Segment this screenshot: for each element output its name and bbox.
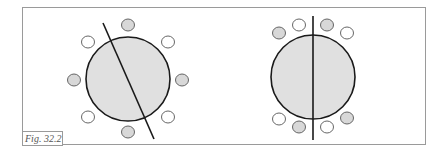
small-circle-white: [341, 27, 354, 39]
small-circle-gray: [273, 27, 286, 39]
small-circle-gray: [122, 126, 135, 138]
small-circle-white: [162, 36, 175, 48]
small-circle-white: [82, 36, 95, 48]
figure-caption: Fig. 32.2: [22, 131, 63, 146]
diagram-right: [271, 16, 355, 140]
small-circle-white: [321, 121, 334, 133]
small-circle-white: [293, 19, 306, 31]
small-circle-gray: [341, 112, 354, 124]
diagram-left: [68, 19, 189, 139]
small-circle-gray: [176, 74, 189, 86]
figure-diagram: [0, 0, 443, 156]
small-circle-white: [273, 113, 286, 125]
small-circle-gray: [122, 19, 135, 31]
small-circle-white: [82, 111, 95, 123]
small-circle-gray: [68, 74, 81, 86]
small-circle-white: [162, 111, 175, 123]
small-circle-gray: [321, 19, 334, 31]
small-circle-gray: [293, 121, 306, 133]
